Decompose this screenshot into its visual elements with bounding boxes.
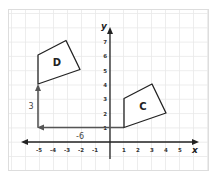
- y-tick: 2: [103, 111, 107, 117]
- y-tick: 4: [103, 82, 107, 88]
- y-tick: 5: [103, 68, 107, 74]
- x-tick: 3: [150, 147, 154, 153]
- translation-label-horizontal: -6: [76, 132, 84, 141]
- x-tick: 4: [164, 147, 168, 153]
- y-tick: 3: [103, 96, 107, 102]
- x-axis-label: x: [191, 145, 199, 155]
- x-tick: -4: [50, 147, 56, 153]
- coordinate-plane-diagram: x y -5 -4 -3 -2 -1 1 2 3 4 5 1 2 3 4 5 6…: [0, 0, 215, 176]
- x-tick: -3: [64, 147, 70, 153]
- shape-d-label: D: [53, 57, 61, 68]
- y-tick: 7: [103, 39, 107, 45]
- x-tick: 5: [178, 147, 182, 153]
- x-tick: -2: [78, 147, 84, 153]
- x-tick: -1: [92, 147, 98, 153]
- x-tick: 2: [136, 147, 140, 153]
- x-tick: -5: [36, 147, 42, 153]
- shape-c-label: C: [139, 101, 146, 112]
- x-tick: 1: [122, 147, 126, 153]
- y-tick: 6: [103, 53, 107, 59]
- translation-label-vertical: 3: [28, 102, 33, 111]
